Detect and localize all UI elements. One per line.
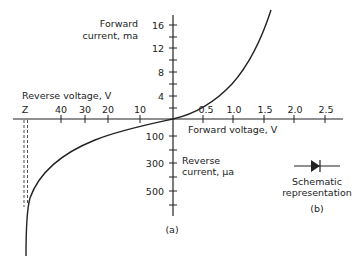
forward-voltage-label: Forward voltage, V: [188, 124, 278, 135]
tick-label-rev-voltage-30: 30: [79, 104, 91, 115]
forward-iv-curve: [173, 10, 271, 119]
tick-label-fwd-voltage-0-5: 0.5: [198, 104, 213, 115]
tick-label-fwd-current-12: 12: [152, 43, 164, 54]
tick-label-fwd-voltage-2-5: 2.5: [318, 104, 333, 115]
reverse-current-label-line2: current, μa: [182, 166, 234, 177]
reverse-voltage-label: Reverse voltage, V: [22, 90, 112, 101]
tick-label-rev-voltage-10: 10: [134, 104, 146, 115]
tick-label-rev-current-100: 100: [146, 131, 164, 142]
tick-label-rev-current-300: 300: [146, 158, 164, 169]
diode-symbol-icon: [294, 160, 340, 172]
tick-label-zener-z: Z: [22, 104, 29, 115]
diode-iv-characteristic-figure: Forward current, ma 16 12 8 4 100 300 50…: [0, 0, 360, 267]
tick-label-rev-voltage-20: 20: [102, 104, 114, 115]
tick-label-rev-current-500: 500: [146, 186, 164, 197]
panel-a-label: (a): [165, 224, 178, 235]
forward-current-label-line2: current, ma: [83, 30, 138, 41]
reverse-current-label-line1: Reverse: [182, 155, 220, 166]
panel-b-label: (b): [310, 203, 323, 214]
schematic-label-line1: Schematic: [292, 176, 342, 187]
tick-label-fwd-voltage-1-5: 1.5: [257, 104, 272, 115]
tick-label-fwd-voltage-2-0: 2.0: [287, 104, 302, 115]
tick-label-rev-voltage-40: 40: [55, 104, 67, 115]
tick-label-fwd-voltage-1-0: 1.0: [226, 104, 241, 115]
tick-label-fwd-current-8: 8: [158, 67, 164, 78]
tick-label-fwd-current-4: 4: [158, 91, 164, 102]
tick-label-fwd-current-16: 16: [152, 20, 164, 31]
zener-breakdown-dashed-lines: [24, 120, 28, 207]
diagram-canvas: Forward current, ma 16 12 8 4 100 300 50…: [0, 0, 360, 267]
forward-current-label-line1: Forward: [100, 18, 138, 29]
schematic-label-line2: representation: [282, 187, 352, 198]
